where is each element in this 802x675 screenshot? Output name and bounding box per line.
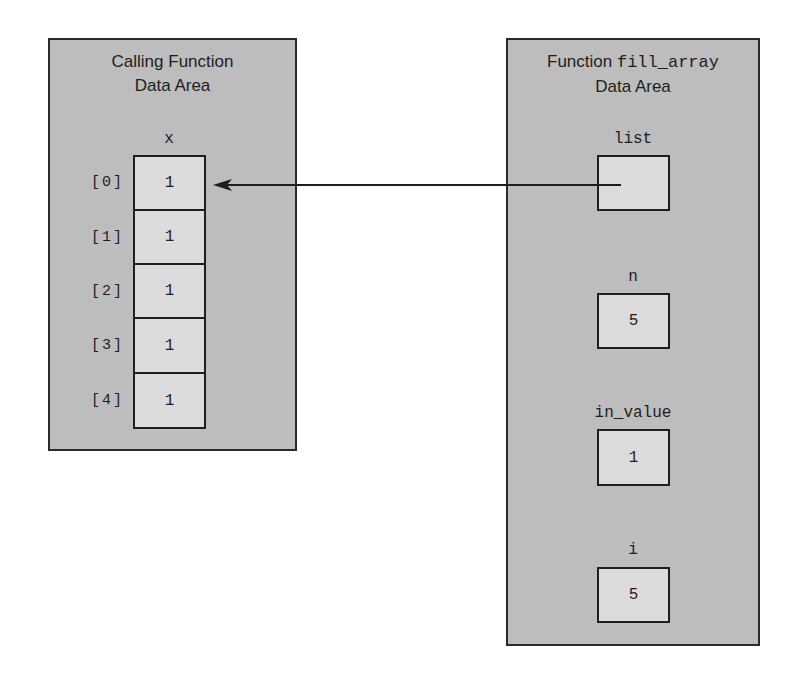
array-cell-0: 1 [133, 155, 206, 211]
array-index-2: [2] [74, 283, 124, 300]
function-title-prefix: Function [547, 52, 617, 71]
calling-panel-title-line1: Calling Function [50, 50, 295, 74]
variable-box-in-value: 1 [597, 429, 670, 486]
variable-label-n: n [553, 268, 713, 286]
array-index-1: [1] [74, 229, 124, 246]
variable-box-list [597, 155, 670, 211]
variable-box-i: 5 [597, 567, 670, 623]
variable-label-list: list [553, 130, 713, 148]
array-index-4: [4] [74, 392, 124, 409]
variable-label-i: i [553, 541, 713, 559]
array-cell-2: 1 [133, 263, 206, 319]
array-index-0: [0] [74, 174, 124, 191]
function-panel-title-line2: Data Area [508, 75, 758, 99]
array-index-3: [3] [74, 337, 124, 354]
calling-panel-title: Calling Function Data Area [50, 50, 295, 98]
function-panel-title: Function fill_array Data Area [508, 50, 758, 99]
calling-panel-title-line2: Data Area [50, 74, 295, 98]
array-cell-1: 1 [133, 209, 206, 265]
array-name-label: x [89, 130, 249, 148]
array-cell-4: 1 [133, 372, 206, 429]
function-panel-title-line1: Function fill_array [508, 50, 758, 75]
function-name: fill_array [617, 53, 719, 72]
array-cell-3: 1 [133, 317, 206, 374]
variable-box-n: 5 [597, 293, 670, 349]
variable-label-in-value: in_value [553, 404, 713, 422]
